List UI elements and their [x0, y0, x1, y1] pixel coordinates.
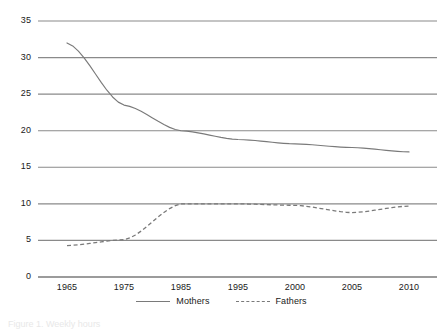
- x-tick-label-2010: 2010: [386, 283, 432, 292]
- series-line-fathers: [67, 204, 409, 246]
- figure-caption-cutoff: Figure 1. Weekly hours: [8, 319, 428, 329]
- legend-label-mothers: Mothers: [176, 297, 209, 306]
- series-line-mothers: [67, 43, 409, 152]
- y-tick-label-35: 35: [5, 16, 31, 25]
- y-tick-label-5: 5: [5, 235, 31, 244]
- legend-item-fathers[interactable]: Fathers: [236, 297, 307, 306]
- y-tick-label-30: 30: [5, 53, 31, 62]
- y-tick-label-0: 0: [5, 272, 31, 281]
- chart-plot-area: [0, 0, 443, 329]
- x-tick-label-1995: 1995: [215, 283, 261, 292]
- legend-item-mothers[interactable]: Mothers: [136, 297, 209, 306]
- legend-swatch-fathers-dashed-line: [236, 298, 270, 306]
- y-tick-label-10: 10: [5, 199, 31, 208]
- chart-legend: Mothers Fathers: [0, 297, 443, 306]
- x-tick-label-1975: 1975: [101, 283, 147, 292]
- line-chart: 05101520253035 1965197519851995200020052…: [0, 0, 443, 329]
- data-series-layer: [67, 43, 409, 246]
- y-tick-label-20: 20: [5, 126, 31, 135]
- x-tick-label-2005: 2005: [329, 283, 375, 292]
- y-tick-label-15: 15: [5, 162, 31, 171]
- x-tick-label-2000: 2000: [272, 283, 318, 292]
- y-tick-label-25: 25: [5, 89, 31, 98]
- legend-label-fathers: Fathers: [276, 297, 307, 306]
- x-tick-label-1965: 1965: [44, 283, 90, 292]
- x-tick-label-1985: 1985: [158, 283, 204, 292]
- legend-swatch-mothers-solid-line: [136, 298, 170, 306]
